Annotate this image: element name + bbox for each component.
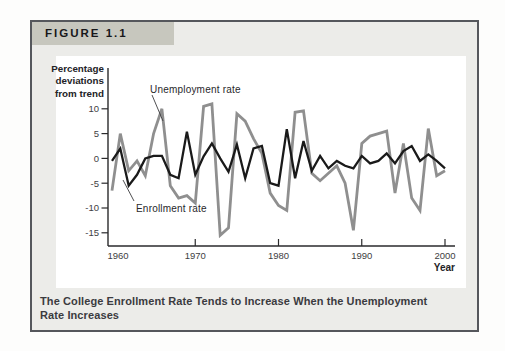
figure-box: FIGURE 1.1 Percentage deviations from tr… [30,20,479,332]
chart-panel [56,56,466,288]
unemployment-series-label: Unemployment rate [150,84,241,95]
y-axis-title: Percentage deviations from trend [38,63,104,100]
figure-number: FIGURE 1.1 [45,27,128,39]
enrollment-series-label: Enrollment rate [136,203,207,214]
page: FIGURE 1.1 Percentage deviations from tr… [0,0,505,351]
figure-caption: The College Enrollment Rate Tends to Inc… [40,295,470,322]
figure-number-tab: FIGURE 1.1 [32,22,174,45]
